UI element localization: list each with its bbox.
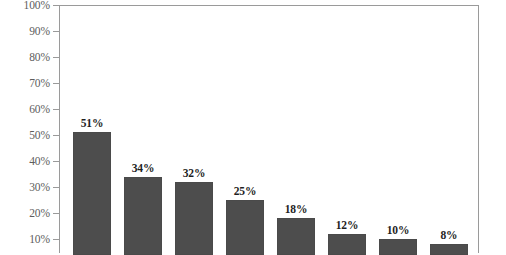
bar-rect[interactable] [175, 182, 213, 255]
bar-item[interactable]: 32% [175, 0, 213, 253]
bar-value-label: 34% [124, 162, 162, 175]
bar-rect[interactable] [124, 177, 162, 255]
bar-item[interactable]: 34% [124, 0, 162, 253]
bar-item[interactable]: 18% [277, 0, 315, 253]
bar-rect[interactable] [430, 244, 468, 255]
bar-rect[interactable] [226, 200, 264, 255]
bar-value-label: 12% [328, 219, 366, 232]
bar-item[interactable]: 25% [226, 0, 264, 253]
bar-item[interactable]: 51% [73, 0, 111, 253]
bar-item[interactable]: 8% [430, 0, 468, 253]
bar-value-label: 32% [175, 167, 213, 180]
bar-value-label: 10% [379, 224, 417, 237]
bar-item[interactable]: 10% [379, 0, 417, 253]
bar-rect[interactable] [328, 234, 366, 255]
bar-item[interactable]: 12% [328, 0, 366, 253]
bar-value-label: 51% [73, 117, 111, 130]
bar-value-label: 18% [277, 203, 315, 216]
bar-rect[interactable] [73, 132, 111, 255]
bar-rect[interactable] [277, 218, 315, 255]
bar-value-label: 25% [226, 185, 264, 198]
bar-value-label: 8% [430, 229, 468, 242]
bar-rect[interactable] [379, 239, 417, 255]
